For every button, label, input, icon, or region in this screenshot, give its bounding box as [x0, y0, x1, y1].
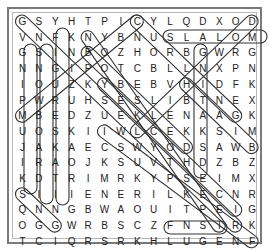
grid-cell[interactable]: G — [244, 45, 261, 60]
grid-cell[interactable]: K — [63, 30, 80, 45]
grid-cell[interactable]: E — [211, 234, 228, 249]
grid-cell[interactable]: O — [129, 202, 146, 217]
grid-cell[interactable]: K — [129, 171, 146, 186]
grid-cell[interactable]: L — [162, 234, 179, 249]
grid-cell[interactable]: F — [244, 234, 261, 249]
grid-cell[interactable]: K — [80, 77, 97, 92]
grid-cell[interactable]: O — [30, 77, 47, 92]
grid-cell[interactable]: O — [162, 140, 179, 155]
grid-cell[interactable]: E — [112, 108, 129, 123]
grid-cell[interactable]: E — [112, 93, 129, 108]
grid-cell[interactable]: D — [194, 14, 211, 29]
grid-cell[interactable]: H — [63, 14, 80, 29]
grid-cell[interactable]: I — [227, 124, 244, 139]
grid-cell[interactable]: K — [244, 108, 261, 123]
grid-cell[interactable]: D — [63, 108, 80, 123]
grid-cell[interactable]: S — [96, 234, 113, 249]
grid-cell[interactable]: R — [63, 171, 80, 186]
grid-cell[interactable]: S — [112, 218, 129, 233]
grid-cell[interactable]: Z — [211, 155, 228, 170]
grid-cell[interactable]: N — [244, 61, 261, 76]
grid-cell[interactable]: U — [14, 124, 31, 139]
grid-cell[interactable]: S — [96, 93, 113, 108]
grid-cell[interactable]: W — [63, 218, 80, 233]
grid-cell[interactable]: L — [162, 14, 179, 29]
grid-cell[interactable]: I — [63, 187, 80, 202]
grid-cell[interactable]: G — [194, 45, 211, 60]
grid-cell[interactable]: H — [129, 45, 146, 60]
grid-cell[interactable]: Q — [178, 14, 195, 29]
grid-cell[interactable]: L — [162, 61, 179, 76]
grid-cell[interactable]: U — [129, 155, 146, 170]
grid-cell[interactable]: G — [194, 234, 211, 249]
grid-cell[interactable]: E — [80, 187, 97, 202]
grid-cell[interactable]: S — [211, 124, 228, 139]
grid-cell[interactable]: F — [162, 218, 179, 233]
grid-cell[interactable]: E — [112, 187, 129, 202]
grid-cell[interactable]: O — [227, 14, 244, 29]
grid-cell[interactable]: I — [80, 171, 97, 186]
grid-cell[interactable]: A — [211, 140, 228, 155]
grid-cell[interactable]: K — [96, 155, 113, 170]
grid-cell[interactable]: W — [96, 202, 113, 217]
grid-cell[interactable]: J — [80, 155, 97, 170]
grid-cell[interactable]: W — [211, 45, 228, 60]
grid-cell[interactable]: R — [112, 234, 129, 249]
grid-cell[interactable]: Y — [96, 77, 113, 92]
grid-cell[interactable]: A — [30, 140, 47, 155]
grid-cell[interactable]: L — [145, 93, 162, 108]
grid-cell[interactable]: K — [129, 234, 146, 249]
grid-cell[interactable]: L — [145, 108, 162, 123]
grid-cell[interactable]: I — [211, 218, 228, 233]
grid-cell[interactable]: Q — [63, 234, 80, 249]
grid-cell[interactable]: D — [194, 155, 211, 170]
grid-cell[interactable]: K — [178, 124, 195, 139]
grid-cell[interactable]: T — [80, 14, 97, 29]
grid-cell[interactable]: B — [178, 93, 195, 108]
grid-cell[interactable]: U — [96, 108, 113, 123]
grid-cell[interactable]: N — [30, 202, 47, 217]
grid-cell[interactable]: N — [30, 61, 47, 76]
grid-cell[interactable]: W — [129, 140, 146, 155]
grid-cell[interactable]: N — [47, 202, 64, 217]
grid-cell[interactable]: E — [162, 124, 179, 139]
grid-cell[interactable]: A — [194, 108, 211, 123]
grid-cell[interactable]: T — [112, 61, 129, 76]
grid-cell[interactable]: E — [162, 108, 179, 123]
grid-cell[interactable]: R — [244, 187, 261, 202]
grid-cell[interactable]: O — [63, 155, 80, 170]
grid-cell[interactable]: I — [47, 234, 64, 249]
grid-cell[interactable]: I — [14, 155, 31, 170]
grid-cell[interactable]: I — [112, 14, 129, 29]
grid-cell[interactable]: Y — [145, 14, 162, 29]
grid-cell[interactable]: L — [178, 61, 195, 76]
grid-cell[interactable]: M — [227, 171, 244, 186]
grid-cell[interactable]: S — [162, 30, 179, 45]
grid-cell[interactable]: C — [30, 234, 47, 249]
grid-cell[interactable]: M — [244, 124, 261, 139]
grid-cell[interactable]: A — [112, 202, 129, 217]
grid-cell[interactable]: G — [14, 14, 31, 29]
grid-cell[interactable]: I — [227, 202, 244, 217]
grid-cell[interactable]: B — [30, 108, 47, 123]
grid-cell[interactable]: N — [80, 30, 97, 45]
grid-cell[interactable]: L — [178, 30, 195, 45]
grid-cell[interactable]: X — [244, 93, 261, 108]
grid-cell[interactable]: O — [96, 61, 113, 76]
grid-cell[interactable]: M — [244, 30, 261, 45]
grid-cell[interactable]: D — [244, 14, 261, 29]
grid-cell[interactable]: C — [211, 187, 228, 202]
grid-cell[interactable]: B — [112, 30, 129, 45]
grid-cell[interactable]: U — [47, 77, 64, 92]
grid-cell[interactable]: U — [145, 202, 162, 217]
grid-cell[interactable]: R — [227, 218, 244, 233]
grid-cell[interactable]: R — [30, 155, 47, 170]
grid-cell[interactable]: I — [14, 77, 31, 92]
grid-cell[interactable]: C — [129, 61, 146, 76]
grid-cell[interactable]: G — [30, 218, 47, 233]
grid-cell[interactable]: U — [178, 234, 195, 249]
grid-cell[interactable]: S — [112, 155, 129, 170]
grid-cell[interactable]: W — [112, 124, 129, 139]
grid-cell[interactable]: O — [227, 30, 244, 45]
grid-cell[interactable]: N — [178, 218, 195, 233]
